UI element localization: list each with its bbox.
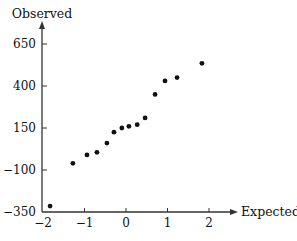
y-axis-arrow-icon — [39, 21, 45, 29]
x-axis-label: Expected — [241, 204, 297, 219]
data-point — [70, 161, 75, 166]
data-point — [143, 116, 148, 121]
scatter-chart: −2−1012 −350−100150400650 Observed Expec… — [0, 0, 297, 241]
y-tick-label: 650 — [13, 37, 36, 51]
data-point — [175, 75, 180, 80]
y-tick-label: −350 — [3, 205, 36, 219]
x-tick-label: 1 — [164, 216, 172, 230]
x-axis-ticks: −2−1012 — [34, 208, 213, 230]
data-point — [200, 61, 205, 66]
x-tick-label: −1 — [76, 216, 94, 230]
data-point — [127, 124, 132, 129]
data-points — [48, 61, 205, 209]
data-point — [163, 79, 168, 84]
x-axis-arrow-icon — [230, 209, 238, 215]
data-point — [135, 122, 140, 127]
y-axis-label: Observed — [12, 6, 73, 21]
x-tick-label: 2 — [205, 216, 213, 230]
y-tick-label: 400 — [13, 79, 36, 93]
data-point — [119, 126, 124, 131]
data-point — [153, 92, 158, 97]
x-tick-label: −2 — [34, 216, 52, 230]
y-tick-label: −100 — [3, 163, 36, 177]
data-point — [112, 130, 117, 135]
axes — [39, 21, 238, 215]
y-tick-label: 150 — [13, 121, 36, 135]
data-point — [85, 152, 90, 157]
data-point — [95, 150, 100, 155]
x-tick-label: 0 — [122, 216, 130, 230]
data-point — [48, 204, 53, 209]
data-point — [105, 141, 110, 146]
y-axis-ticks: −350−100150400650 — [3, 37, 47, 219]
